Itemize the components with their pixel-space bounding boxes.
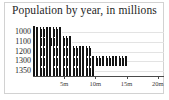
bar: [33, 38, 72, 46]
x-axis-tick-label: 10m: [84, 80, 106, 88]
y-axis-tick-label: 1350: [0, 66, 31, 75]
x-axis-tick-mark: [158, 76, 159, 79]
bar: [33, 58, 127, 66]
bar-row: [33, 67, 164, 77]
x-axis-tick-label: 5m: [53, 80, 75, 88]
chart-title: Population by year, in millions: [0, 4, 169, 17]
bar: [33, 68, 95, 76]
chart-figure: Population by year, in millions 10001100…: [0, 0, 169, 100]
y-axis-tick-label: 1200: [0, 47, 31, 56]
x-axis-tick-mark: [127, 76, 128, 79]
x-axis-tick-label: 20m: [147, 80, 169, 88]
x-axis-tick-mark: [95, 76, 96, 79]
y-axis-tick-label: 1300: [0, 56, 31, 65]
x-axis-tick-mark: [64, 76, 65, 79]
x-axis-tick-label: 15m: [116, 80, 138, 88]
bar: [33, 48, 92, 56]
y-axis-tick-label: 1100: [0, 37, 31, 46]
bar: [33, 29, 62, 37]
y-axis-tick-label: 1000: [0, 27, 31, 36]
